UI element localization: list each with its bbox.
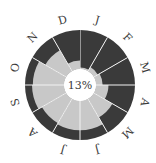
month-label-4: M xyxy=(119,124,136,141)
month-label-10: N xyxy=(25,29,41,45)
month-label-9: O xyxy=(8,62,23,74)
center-percentage: 13% xyxy=(68,79,92,92)
month-label-8: S xyxy=(8,97,23,108)
month-label-0: J xyxy=(93,13,102,27)
month-label-11: D xyxy=(57,13,69,28)
month-label-2: M xyxy=(137,61,152,75)
month-label-7: A xyxy=(24,124,40,140)
month-label-6: J xyxy=(59,143,68,157)
month-label-1: F xyxy=(120,30,135,45)
month-label-5: J xyxy=(94,143,103,157)
radial-month-chart: JFMAMJJASOND 13% xyxy=(0,0,156,163)
month-label-3: A xyxy=(137,96,152,109)
